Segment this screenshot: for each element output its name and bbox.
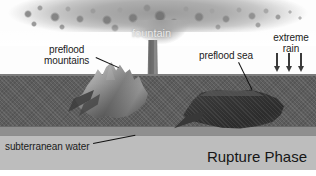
preflood-mountains-shape: [72, 60, 148, 118]
preflood-sea-shape: [183, 89, 285, 132]
bottom-margin: [0, 170, 316, 176]
subterranean-water-top-line: [0, 135, 316, 136]
label-extreme-rain: extreme rain: [268, 32, 314, 54]
down-arrow-icon: [272, 53, 281, 73]
rupture-phase-diagram: preflood mountains preflood sea extreme …: [0, 0, 316, 176]
label-fountain: fountain: [132, 27, 171, 39]
label-extreme-rain-line2: rain: [268, 43, 314, 54]
down-arrow-icon: [284, 53, 293, 73]
label-preflood-mountains-line2: mountains: [44, 55, 89, 66]
label-subterranean-water: subterranean water: [5, 141, 89, 152]
diagram-title: Rupture Phase: [207, 148, 307, 165]
label-preflood-mountains-line1: preflood: [44, 44, 89, 55]
sea-rim-highlight: [195, 90, 267, 96]
extreme-rain-arrows: [272, 53, 310, 73]
down-arrow-icon: [296, 53, 305, 73]
label-extreme-rain-line1: extreme: [268, 32, 314, 43]
crust-surface-line: [0, 74, 316, 76]
label-preflood-sea: preflood sea: [199, 50, 253, 61]
label-preflood-mountains: preflood mountains: [44, 44, 89, 66]
